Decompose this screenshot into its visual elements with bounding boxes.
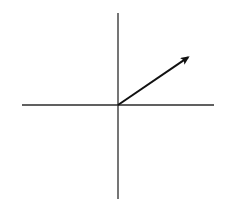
vector-arrow — [118, 57, 188, 105]
diagram-svg — [0, 0, 228, 210]
diagram-canvas — [0, 0, 228, 210]
